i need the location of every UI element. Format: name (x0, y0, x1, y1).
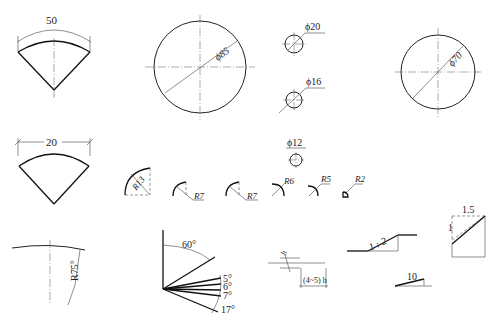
slope-box: 1.5 1 (448, 204, 485, 257)
dim-20-label: 20 (46, 136, 58, 148)
radius-r13: R13 (125, 168, 150, 195)
angle-fan: 60° 5° 6° 7° 17° (163, 230, 235, 315)
phi12-label: ϕ12 (287, 137, 302, 148)
slope-1-2: 1 : 2 (347, 235, 417, 253)
taper-label: 10 (407, 271, 417, 282)
radius-r7-a: R7 (173, 182, 204, 201)
angle-7-label: 7° (223, 290, 232, 301)
slope-label: 1 : 2 (367, 235, 388, 253)
spacing-box-label: (4~5) h (303, 276, 327, 285)
sector-arc-dimension: 50 (17, 14, 91, 100)
radius-r2: R2 (343, 174, 365, 197)
angle-60-label: 60° (182, 239, 196, 250)
r75-label: R75° (69, 260, 80, 281)
sector-chord-dimension: 20 (15, 136, 93, 204)
r5-label: R5 (320, 174, 331, 184)
phi20-label: ϕ20 (305, 21, 320, 32)
r2-label: R2 (354, 174, 365, 184)
slope-box-side-label: 1 (448, 222, 453, 233)
taper-10: 10 (395, 271, 432, 286)
radius-r6: R6 (272, 176, 294, 196)
circle-phi85: ϕ85 (145, 15, 255, 120)
spacing-h-label: h (279, 250, 289, 257)
circle-phi12: ϕ12 (286, 137, 306, 168)
r7-b-label: R7 (246, 191, 257, 201)
dim-50-label: 50 (46, 14, 58, 26)
phi70-label: ϕ70 (446, 50, 464, 69)
radius-r5: R5 (308, 174, 331, 196)
r6-label: R6 (283, 176, 294, 186)
radius-r7-b: R7 (226, 182, 258, 201)
r7-a-label: R7 (193, 191, 204, 201)
large-radius-r75: R75° (12, 240, 85, 305)
circle-phi16: ϕ16 (279, 76, 325, 113)
circle-phi20: ϕ20 (282, 21, 325, 56)
phi16-label: ϕ16 (306, 76, 321, 87)
angle-17-label: 17° (221, 304, 235, 315)
spacing-dimension: h (4~5) h (268, 250, 328, 288)
circle-phi70: ϕ70 (395, 28, 482, 118)
drawing-canvas: 50 ϕ85 ϕ20 ϕ16 ϕ70 (0, 0, 500, 325)
slope-box-top-label: 1.5 (462, 204, 475, 215)
